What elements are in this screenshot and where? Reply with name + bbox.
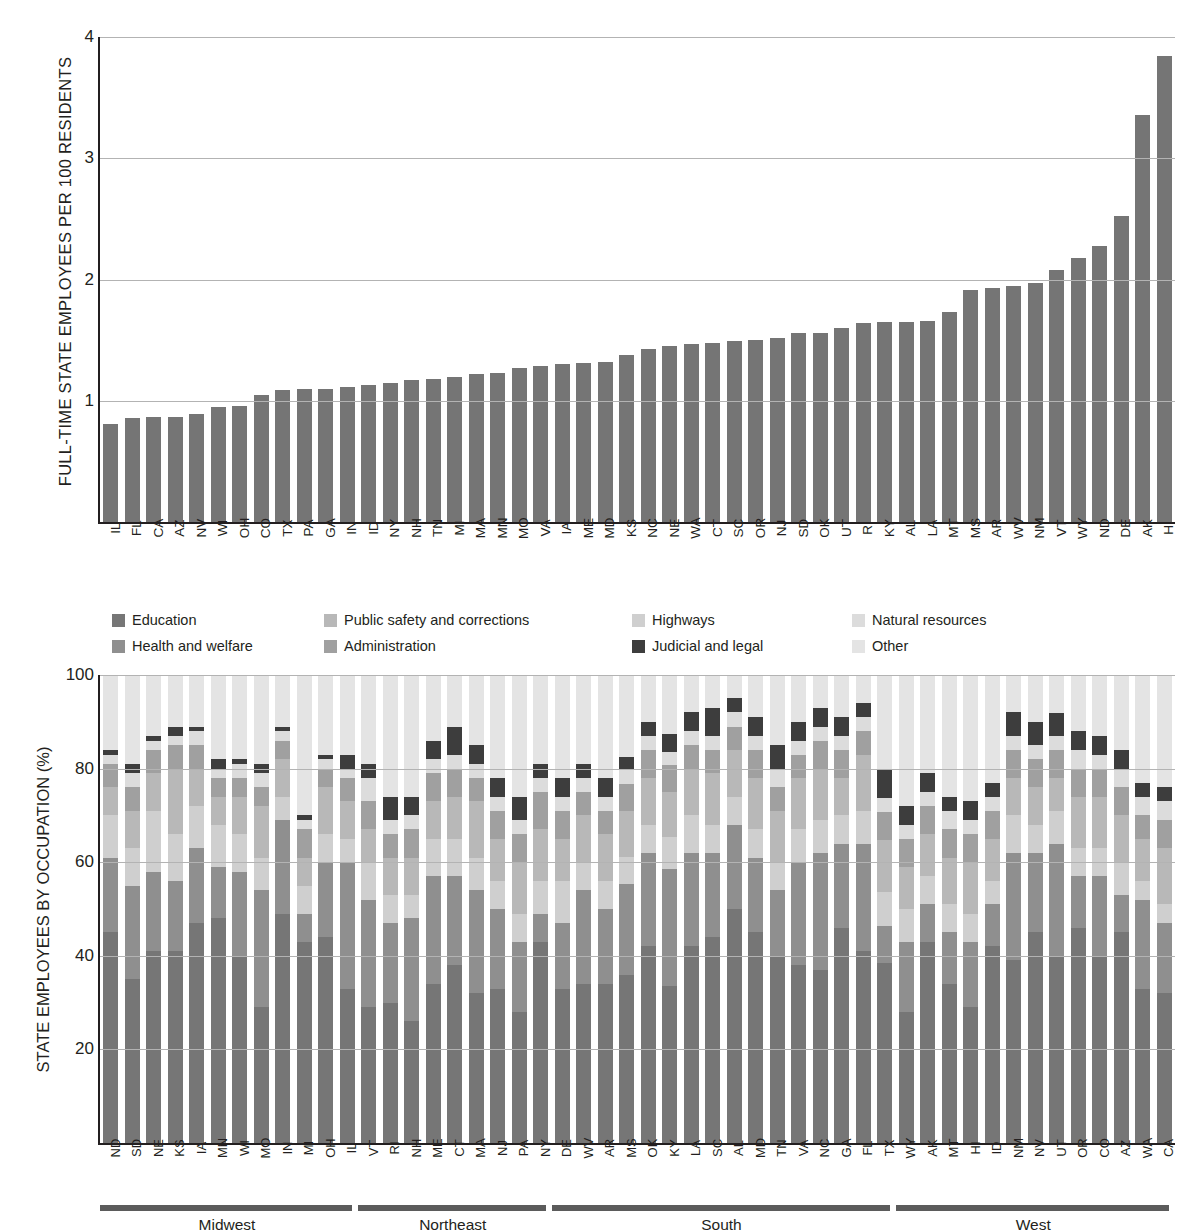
bottom-chart-bar-segment — [877, 812, 892, 840]
bottom-chart-bar-segment — [168, 881, 183, 951]
bottom-chart-bar-segment — [533, 675, 548, 764]
bottom-chart-bar-segment — [1028, 722, 1043, 745]
bottom-chart-x-axis-labels: NDSDNEKSIAMNWIMOINMIOHILVTRINHMECTMANJPA… — [98, 1147, 1173, 1201]
bottom-chart-bar-segment — [383, 923, 398, 1003]
bottom-chart-bar-cell — [1046, 675, 1068, 1143]
bottom-chart-bar-segment — [705, 708, 720, 736]
bottom-chart-bar-segment — [1006, 712, 1021, 735]
bottom-chart-bar-segment — [942, 984, 957, 1143]
top-chart-x-label-cell: LA — [915, 526, 937, 586]
bottom-chart-stacked-bar — [490, 675, 505, 1143]
bottom-chart-bar-segment — [426, 876, 441, 984]
bottom-chart-bar-segment — [426, 759, 441, 773]
bottom-chart-bar-segment — [469, 890, 484, 993]
bottom-chart-bar-segment — [361, 829, 376, 862]
bottom-chart-bar-segment — [813, 727, 828, 741]
top-chart-bar — [877, 322, 892, 522]
region-label: Midwest — [98, 1216, 356, 1232]
bottom-chart-bars — [100, 675, 1175, 1143]
top-chart-x-label-cell: SC — [722, 526, 744, 586]
bottom-chart-x-tick-label: CA — [1162, 1139, 1175, 1157]
top-chart-x-label-cell: UT — [829, 526, 851, 586]
bottom-chart-bar-segment — [1135, 839, 1150, 881]
bottom-chart-bar-segment — [146, 773, 161, 810]
bottom-chart-x-label-cell: MS — [614, 1147, 636, 1201]
top-chart-x-label-cell: WI — [206, 526, 228, 586]
bottom-chart-bar-segment — [641, 736, 656, 750]
bottom-chart-bar-segment — [189, 745, 204, 768]
bottom-chart-x-label-cell: NY — [528, 1147, 550, 1201]
bottom-chart-stacked-bar — [684, 675, 699, 1143]
bottom-chart-bar-segment — [1071, 750, 1086, 769]
bottom-chart-stacked-bar — [555, 675, 570, 1143]
bottom-chart-bar-segment — [748, 717, 763, 736]
bottom-chart-bar-segment — [899, 1012, 914, 1143]
top-chart-x-label-cell: VA — [528, 526, 550, 586]
top-chart-x-label-cell: ME — [571, 526, 593, 586]
bottom-chart-bar-segment — [533, 881, 548, 914]
bottom-chart-bar-cell — [208, 675, 230, 1143]
top-chart-x-label-cell: NC — [636, 526, 658, 586]
bottom-chart-bar-cell — [401, 675, 423, 1143]
top-chart-bar — [275, 390, 290, 522]
bottom-chart-bar-segment — [662, 986, 677, 1144]
bottom-chart-bar-segment — [1049, 778, 1064, 811]
top-chart-x-label-cell: TN — [421, 526, 443, 586]
bottom-chart-bar-segment — [146, 872, 161, 952]
bottom-chart-bar-segment — [920, 792, 935, 806]
top-chart-x-label-cell: OK — [808, 526, 830, 586]
bottom-chart-bar-segment — [942, 811, 957, 830]
bottom-chart-bar-cell — [831, 675, 853, 1143]
bottom-chart-stacked-bar — [748, 675, 763, 1143]
bottom-chart-bar-segment — [297, 942, 312, 1143]
bottom-chart-bar-segment — [1135, 783, 1150, 797]
bottom-chart-stacked-bar — [899, 675, 914, 1143]
top-chart-bar — [533, 366, 548, 522]
bottom-chart-bar-segment — [856, 717, 871, 731]
bottom-chart-bar-segment — [770, 769, 785, 788]
bottom-chart-bar-segment — [834, 717, 849, 736]
top-chart-bar — [1006, 286, 1021, 522]
bottom-chart-bar-segment — [856, 703, 871, 717]
region-underline-bar — [552, 1205, 890, 1211]
bottom-chart-bar-segment — [340, 989, 355, 1143]
bottom-chart-bar-segment — [942, 675, 957, 797]
bottom-chart-bar-segment — [383, 820, 398, 834]
bottom-chart-bar-segment — [1028, 675, 1043, 722]
bottom-chart-bar-segment — [985, 881, 1000, 904]
bottom-chart-bar-segment — [447, 965, 462, 1143]
bottom-chart-bar-segment — [297, 886, 312, 914]
bottom-chart-bar-cell — [767, 675, 789, 1143]
bottom-chart-bar-segment — [340, 839, 355, 862]
top-chart-x-label-cell: NJ — [765, 526, 787, 586]
top-chart-bar — [684, 344, 699, 522]
bottom-chart-bar-segment — [576, 792, 591, 815]
bottom-chart-bar-cell — [1068, 675, 1090, 1143]
top-chart-y-tick-label: 2 — [24, 271, 94, 288]
bottom-chart-y-tick-label: 20 — [24, 1040, 94, 1057]
bottom-chart-bar-segment — [426, 675, 441, 741]
bottom-chart-bar-segment — [168, 727, 183, 736]
bottom-chart-bar-segment — [103, 815, 118, 857]
bottom-chart-bar-cell — [251, 675, 273, 1143]
bottom-chart-bar-segment — [447, 839, 462, 876]
bottom-chart-bar-segment — [684, 675, 699, 712]
top-chart-x-label-cell: OR — [743, 526, 765, 586]
bottom-chart-bar-cell — [143, 675, 165, 1143]
bottom-chart-bar-segment — [404, 895, 419, 918]
bottom-chart-bar-segment — [211, 778, 226, 797]
bottom-chart-x-label-cell: WV — [571, 1147, 593, 1201]
bottom-chart-bar-segment — [512, 862, 527, 913]
bottom-chart-bar-segment — [748, 932, 763, 1143]
bottom-chart-bar-segment — [834, 750, 849, 778]
bottom-chart-bar-segment — [942, 904, 957, 932]
bottom-chart-bar-cell — [272, 675, 294, 1143]
bottom-chart-bar-segment — [1071, 876, 1086, 927]
legend-item-label: Natural resources — [872, 612, 986, 628]
bottom-chart-bar-segment — [447, 755, 462, 769]
bottom-chart-stacked-bar — [813, 675, 828, 1143]
bottom-chart-stacked-bar — [598, 675, 613, 1143]
bottom-chart-bar-segment — [1114, 895, 1129, 932]
bottom-chart-bar-segment — [684, 712, 699, 731]
bottom-chart-bar-segment — [1071, 797, 1086, 848]
